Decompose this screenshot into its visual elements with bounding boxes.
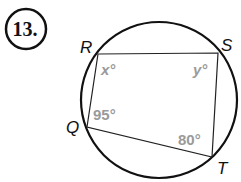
angle-label-s: y° [192,61,208,78]
problem-number-badge: 13. [6,9,46,49]
problem-number: 13. [13,18,38,40]
angle-label-q: 95° [93,106,116,123]
vertex-label-r: R [80,38,92,57]
vertex-label-q: Q [66,118,79,137]
angle-label-r: x° [100,61,116,78]
angle-label-t: 80° [178,131,201,148]
geometry-figure: 13. R S Q T x° y° 95° 80° [0,0,241,182]
vertex-label-t: T [217,159,229,178]
circumscribed-circle [81,22,237,178]
vertex-label-s: S [221,36,233,55]
